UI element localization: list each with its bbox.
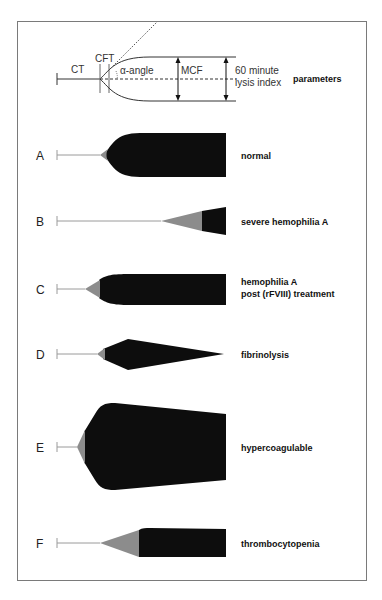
- amplitude-curve-bottom: [100, 79, 236, 101]
- row-description: severe hemophilia A: [241, 217, 329, 227]
- row-letter: E: [36, 441, 44, 455]
- clot-firmness-shape: [103, 339, 224, 370]
- lysis-label-line1: 60 minute: [235, 65, 279, 76]
- row-letter: C: [36, 283, 45, 297]
- cft-segment: [97, 348, 105, 360]
- row-description: normal: [241, 151, 271, 161]
- row-a: A normal: [36, 133, 271, 177]
- rotem-diagram: CT CFT α-angle MCF 60 minute lysis index…: [0, 0, 382, 600]
- row-letter: A: [36, 149, 44, 163]
- row-c: C hemophilia A post (rFVIII) treatment: [36, 274, 335, 305]
- ct-label: CT: [71, 64, 84, 75]
- row-letter: B: [36, 215, 44, 229]
- row-description-line2: post (rFVIII) treatment: [241, 289, 335, 299]
- mcf-arrowhead-up: [176, 57, 181, 63]
- cft-segment: [161, 211, 202, 231]
- clot-firmness-shape: [84, 403, 226, 490]
- cft-segment: [85, 280, 100, 298]
- row-letter: F: [36, 537, 43, 551]
- parameters-title: parameters: [293, 74, 342, 84]
- row-b: B severe hemophilia A: [36, 207, 329, 235]
- lysis-arrowhead-down: [224, 95, 229, 101]
- clot-firmness-shape: [202, 207, 226, 235]
- clot-firmness-shape: [139, 528, 226, 557]
- cft-segment: [77, 430, 85, 464]
- alpha-angle-arc: [116, 71, 117, 79]
- row-e: E hypercoagulable: [36, 403, 313, 490]
- cft-segment: [100, 530, 139, 557]
- lysis-label-line2: lysis index: [235, 77, 281, 88]
- parameters-schematic: CT CFT α-angle MCF 60 minute lysis index…: [57, 22, 342, 101]
- row-letter: D: [36, 348, 45, 362]
- row-description: fibrinolysis: [241, 350, 289, 360]
- row-f: F thrombocytopenia: [36, 528, 320, 557]
- lysis-arrowhead-up: [224, 57, 229, 63]
- clot-firmness-shape: [99, 274, 226, 305]
- row-description-line1: hemophilia A: [241, 277, 298, 287]
- alpha-angle-label: α-angle: [120, 65, 154, 76]
- mcf-arrowhead-down: [176, 95, 181, 101]
- row-description: hypercoagulable: [241, 443, 313, 453]
- mcf-label: MCF: [181, 65, 203, 76]
- row-d: D fibrinolysis: [36, 339, 289, 370]
- clot-firmness-shape: [104, 133, 226, 177]
- row-description: thrombocytopenia: [241, 539, 320, 549]
- cft-label: CFT: [95, 53, 114, 64]
